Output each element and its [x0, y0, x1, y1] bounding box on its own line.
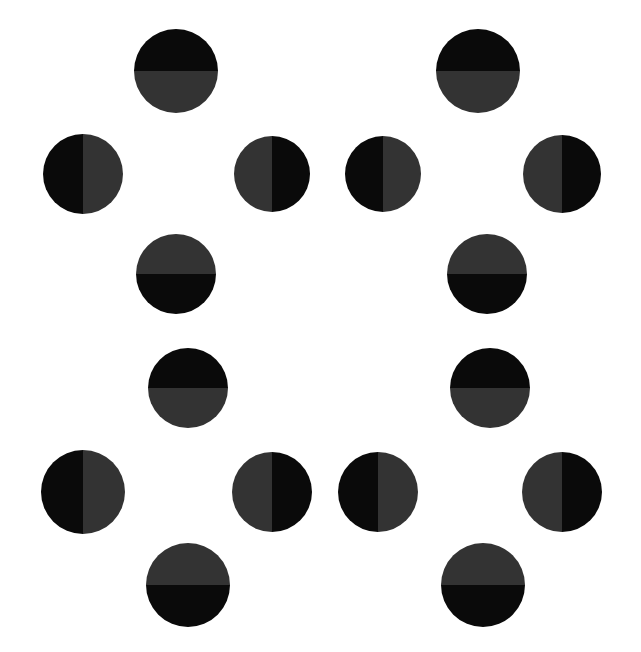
- split-circle-r6c2: [441, 543, 525, 627]
- split-circle-r2c2: [234, 136, 310, 212]
- split-circle-r5c4: [522, 452, 602, 532]
- split-circle-r5c2: [232, 452, 312, 532]
- split-circle-r4c1: [148, 348, 228, 428]
- split-circle-r5c1: [41, 450, 125, 534]
- split-circle-r3c1: [136, 234, 216, 314]
- split-circle-r2c3: [345, 136, 421, 212]
- split-circle-r6c1: [146, 543, 230, 627]
- split-circle-r4c2: [450, 348, 530, 428]
- split-circle-r2c4: [523, 135, 601, 213]
- split-circle-r5c3: [338, 452, 418, 532]
- split-circle-r1c1: [134, 29, 218, 113]
- split-circle-r3c2: [447, 234, 527, 314]
- split-circle-r2c1: [43, 134, 123, 214]
- split-circle-r1c2: [436, 29, 520, 113]
- pattern-canvas: [0, 0, 641, 652]
